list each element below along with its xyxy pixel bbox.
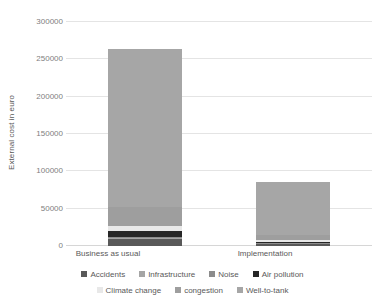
legend-item[interactable]: Noise	[209, 270, 238, 279]
legend-item[interactable]: Accidents	[81, 270, 125, 279]
legend-swatch-icon	[97, 287, 103, 293]
bar-segment	[256, 244, 330, 246]
legend-label: Air pollution	[262, 270, 304, 279]
legend-label: Climate change	[106, 286, 162, 295]
legend-item[interactable]: Infrastructure	[139, 270, 195, 279]
bar-implementation	[256, 182, 330, 246]
legend-swatch-icon	[139, 271, 145, 277]
bar-segment	[108, 207, 182, 226]
y-axis-tick-label: 150000	[3, 130, 63, 138]
legend-swatch-icon	[175, 287, 181, 293]
y-axis-tick-label: 200000	[3, 93, 63, 101]
bar-business-as-usual	[108, 49, 182, 246]
legend-item[interactable]: Air pollution	[253, 270, 304, 279]
y-axis-tick-label: 50000	[3, 205, 63, 213]
legend-label: Infrastructure	[148, 270, 195, 279]
legend-swatch-icon	[253, 271, 259, 277]
x-axis-category-label: Implementation	[195, 249, 335, 258]
y-axis-tick-label: 300000	[3, 18, 63, 26]
legend-item[interactable]: congestion	[175, 286, 223, 295]
legend-label: congestion	[184, 286, 223, 295]
gridline	[66, 21, 372, 22]
legend-label: Noise	[218, 270, 238, 279]
legend-item[interactable]: Climate change	[97, 286, 162, 295]
x-axis-category-label: Business as usual	[38, 249, 178, 258]
bar-segment	[108, 239, 182, 246]
legend-row: AccidentsInfrastructureNoiseAir pollutio…	[0, 266, 385, 282]
y-axis-tick-label: 100000	[3, 167, 63, 175]
legend-label: Well-to-tank	[246, 286, 289, 295]
bar-segment	[256, 182, 330, 235]
chart-legend: AccidentsInfrastructureNoiseAir pollutio…	[0, 266, 385, 298]
legend-item[interactable]: Well-to-tank	[237, 286, 289, 295]
legend-row: Climate changecongestionWell-to-tank	[0, 282, 385, 298]
legend-swatch-icon	[81, 271, 87, 277]
legend-label: Accidents	[90, 270, 125, 279]
legend-swatch-icon	[209, 271, 215, 277]
bar-segment	[108, 49, 182, 208]
y-axis-tick-label: 250000	[3, 55, 63, 63]
legend-swatch-icon	[237, 287, 243, 293]
chart-container: External cost in euro 050000100000150000…	[0, 0, 385, 308]
plot-area	[66, 22, 372, 246]
